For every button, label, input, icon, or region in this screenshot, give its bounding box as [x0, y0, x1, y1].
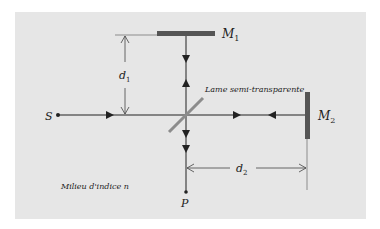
beam-arrow-down	[182, 145, 190, 153]
mirror-m1-label: M1	[221, 27, 239, 43]
interferometer-diagram: S M1 M2 d1 d2 Lame semi-transparente P M…	[0, 0, 380, 229]
source-point	[56, 113, 60, 117]
point-p-label: P	[180, 197, 189, 210]
medium-label: Milieu d'indice n	[60, 182, 129, 191]
source-label: S	[45, 110, 53, 123]
beam-arrow-up	[182, 79, 190, 87]
beam-arrow-left	[268, 111, 276, 119]
mirror-m1	[157, 31, 215, 36]
beam-arrow-down	[182, 55, 190, 63]
beamsplitter-label: Lame semi-transparente	[204, 85, 305, 94]
point-p	[184, 190, 188, 194]
beam-arrow-right	[106, 111, 114, 119]
distance-d1-label: d1	[119, 69, 131, 84]
mirror-m2	[305, 92, 310, 139]
distance-d2-label: d2	[236, 162, 248, 177]
mirror-m2-label: M2	[317, 109, 335, 125]
beam-arrow-down	[182, 130, 190, 138]
beam-arrow-right	[233, 111, 241, 119]
